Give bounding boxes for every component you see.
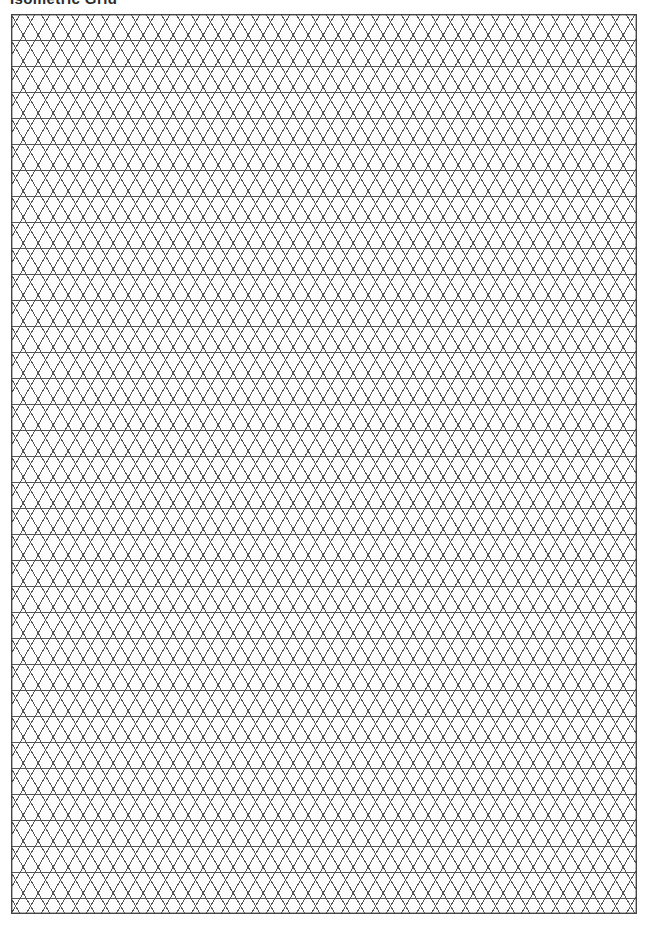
grid-background (11, 14, 637, 914)
grid-paper-page: Isometric Grid (0, 0, 647, 925)
grid-sheet (11, 14, 637, 914)
page-title: Isometric Grid (10, 0, 117, 7)
isometric-grid-canvas (11, 14, 637, 914)
